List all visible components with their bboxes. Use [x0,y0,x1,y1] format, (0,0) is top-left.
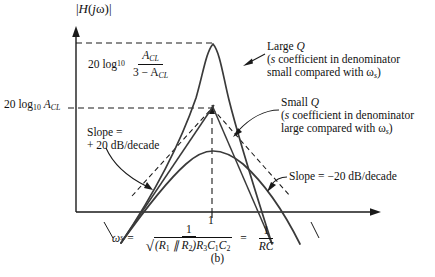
gain-acl-base: 10 [33,103,41,112]
gain-peak-denominator: 3 − ACL [129,65,172,81]
large-q-title-b: Q [296,40,304,52]
large-q-line2-c: coefficient in denominator [275,53,400,65]
c1-term: C [207,239,215,251]
small-q-line2-c: coefficient in denominator [289,109,414,121]
small-q-title-b: Q [311,96,319,108]
gain-peak-fraction: ACL 3 − ACL [129,48,172,81]
large-q-leader-arrowhead [243,59,253,67]
gain-peak-den-sub: CL [159,71,169,80]
small-q-title-a: Small [281,96,311,108]
equation-equals-2: = [240,232,247,245]
large-q-line1: Large Q [267,40,400,53]
equation-fraction-2: 1 RC [255,223,278,253]
r2-term: ∥ R [170,239,189,251]
large-q-annotation: Large Q (s coefficient in denominator sm… [267,40,400,81]
gain-acl-level-label: 20 log10 ACL [4,98,60,113]
center-frequency-equation: ωs = 1 √ (R1 ∥ R2)R3C1C2 = 1 RC [112,222,277,255]
small-q-line3-a: large compared with ω [281,122,386,134]
equation-fraction-1: 1 √ (R1 ∥ R2)R3C1C2 [142,222,237,255]
small-q-line2: (s coefficient in denominator [281,109,414,122]
y-axis-h: H [79,1,88,16]
omega-subscript: s [120,234,123,243]
slope-negative-annotation: Slope = −20 dB/decade [289,170,397,183]
low-frequency-asymptote [132,108,212,196]
small-q-annotation: Small Q (s coefficient in denominator la… [281,96,414,137]
slope-pos-leader-arrowhead [144,182,153,190]
small-q-line3-b: ) [389,122,393,134]
slope-pos-line2: + 20 dB/decade [87,139,159,152]
large-q-line3-a: small compared with ω [267,66,374,78]
equation-frac2-numerator: 1 [259,223,273,238]
gain-peak-level-label: 20 log10 ACL 3 − ACL [88,48,172,81]
gain-peak-numerator: ACL [138,48,163,65]
y-axis-title: |H(jω)| [76,2,111,17]
y-axis-arrowhead [72,26,80,37]
slope-neg-leader-arrowhead [267,182,276,192]
slope-pos-leader [106,148,146,186]
center-frequency-tick-label: 1 [208,214,214,227]
equation-leader-right [311,222,319,238]
small-q-line3: large compared with ωs) [281,122,414,137]
gain-acl-value: A [44,98,51,110]
gain-acl-prefix: 20 log [4,98,33,110]
small-q-line1: Small Q [281,96,414,109]
equation-equals-1: = [127,232,134,245]
gain-acl-value-sub: CL [51,103,61,112]
gain-peak-num-sub: CL [149,54,159,63]
large-q-title-a: Large [267,40,296,52]
equation-frac1-numerator: 1 [182,222,196,237]
large-q-line3-b: ) [377,66,381,78]
r1-term: (R [155,239,166,251]
gain-peak-prefix: 20 log [88,58,117,71]
gain-peak-base: 10 [117,60,125,69]
large-q-line2: (s coefficient in denominator [267,53,400,66]
omega-symbol: ω [112,232,120,245]
slope-pos-line1: Slope = [87,126,159,139]
y-axis-omega: ω [96,1,105,16]
small-q-leader [238,110,279,131]
r3-term: )R [192,239,203,251]
asymptote-lines [132,108,290,196]
bode-plot-figure: |H(jω)| 20 log10 ACL 20 log10 ACL 3 − AC… [0,0,435,277]
small-q-leader-arrowhead [233,128,242,137]
figure-caption: (b) [0,252,435,265]
large-q-line3: small compared with ωs) [267,66,400,81]
slope-positive-annotation: Slope = + 20 dB/decade [87,126,159,152]
x-axis-arrowhead [370,208,381,216]
gain-peak-den-a: 3 − A [133,66,159,78]
y-axis-bar-right: | [109,1,112,16]
